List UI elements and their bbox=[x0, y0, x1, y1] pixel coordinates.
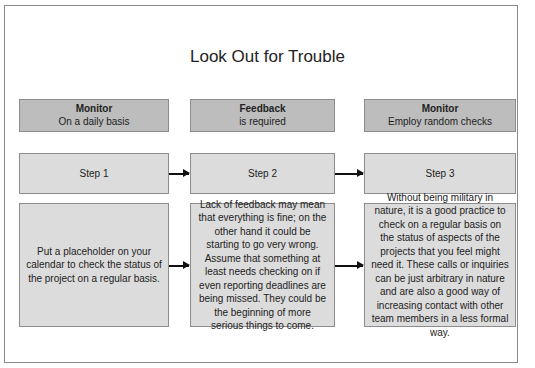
description-box-2: Lack of feedback may mean that everythin… bbox=[190, 203, 335, 327]
arrow-right-icon bbox=[169, 173, 189, 175]
step-label-1: Step 1 bbox=[80, 168, 109, 179]
header-subtitle-1: On a daily basis bbox=[58, 116, 129, 129]
header-box-3: Monitor Employ random checks bbox=[364, 99, 516, 132]
arrow-right-icon bbox=[335, 173, 363, 175]
description-text-3: Without being military in nature, it is … bbox=[371, 191, 509, 340]
step-box-3: Step 3 bbox=[364, 153, 516, 194]
step-label-2: Step 2 bbox=[248, 168, 277, 179]
header-title-3: Monitor bbox=[422, 103, 459, 116]
step-label-3: Step 3 bbox=[426, 168, 455, 179]
step-box-2: Step 2 bbox=[190, 153, 335, 194]
description-box-3: Without being military in nature, it is … bbox=[364, 203, 516, 327]
header-box-2: Feedback is required bbox=[190, 99, 335, 132]
arrow-right-icon bbox=[335, 265, 363, 267]
header-box-1: Monitor On a daily basis bbox=[19, 99, 169, 132]
diagram-title: Look Out for Trouble bbox=[0, 47, 535, 67]
arrow-right-icon bbox=[169, 265, 189, 267]
description-box-1: Put a placeholder on your calendar to ch… bbox=[19, 203, 169, 327]
header-title-1: Monitor bbox=[76, 103, 113, 116]
header-title-2: Feedback bbox=[239, 103, 285, 116]
step-box-1: Step 1 bbox=[19, 153, 169, 194]
description-text-2: Lack of feedback may mean that everythin… bbox=[197, 198, 328, 333]
header-subtitle-3: Employ random checks bbox=[388, 116, 492, 129]
description-text-1: Put a placeholder on your calendar to ch… bbox=[26, 245, 162, 286]
header-subtitle-2: is required bbox=[239, 116, 286, 129]
